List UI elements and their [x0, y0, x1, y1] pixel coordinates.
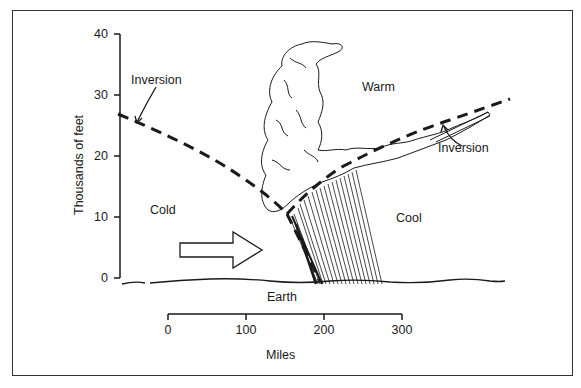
y-tick-40: 40 — [84, 27, 108, 41]
region-label-cold: Cold — [150, 203, 176, 217]
arrow-right-icon — [180, 232, 262, 268]
region-label-earth: Earth — [267, 290, 297, 304]
region-label-cool: Cool — [396, 211, 422, 225]
arrow-inversion-left — [137, 87, 156, 122]
x-scale-bar — [168, 314, 402, 320]
x-scale-label: Miles — [266, 348, 295, 362]
annotation-inversion-left: Inversion — [131, 73, 182, 87]
y-tick-10: 10 — [84, 210, 108, 224]
y-tick-0: 0 — [84, 271, 108, 285]
y-axis-label: Thousands of feet — [72, 115, 86, 215]
x-tick-100: 100 — [226, 323, 266, 337]
y-axis — [114, 34, 120, 278]
y-tick-20: 20 — [84, 149, 108, 163]
x-tick-300: 300 — [382, 323, 422, 337]
x-tick-0: 0 — [148, 323, 188, 337]
annotation-inversion-right: Inversion — [438, 141, 489, 155]
region-label-warm: Warm — [362, 80, 395, 94]
occlusion-front-diagram — [0, 0, 581, 388]
x-tick-200: 200 — [304, 323, 344, 337]
y-tick-30: 30 — [84, 88, 108, 102]
cloud-icon — [262, 42, 490, 212]
